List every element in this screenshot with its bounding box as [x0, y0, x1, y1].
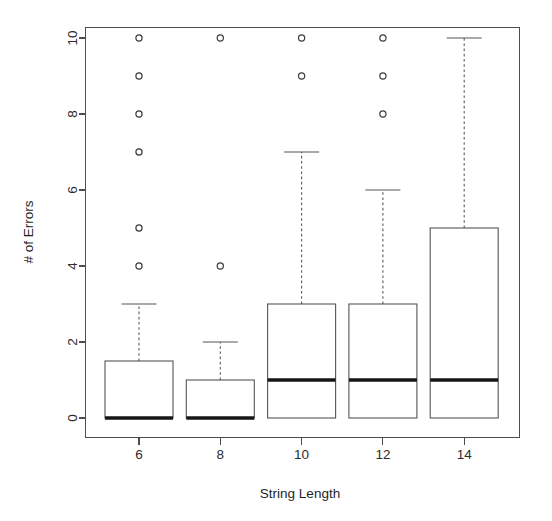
- box-iqr: [105, 361, 173, 418]
- box-iqr: [430, 228, 498, 418]
- outlier-point: [136, 263, 142, 269]
- y-tick-label: 6: [65, 186, 80, 194]
- box-group: [349, 35, 417, 418]
- outlier-point: [217, 35, 223, 41]
- outlier-point: [380, 111, 386, 117]
- x-tick-label: 14: [457, 447, 473, 462]
- outlier-point: [299, 35, 305, 41]
- x-axis-title: String Length: [260, 486, 340, 501]
- outlier-point: [380, 73, 386, 79]
- box-iqr: [268, 304, 336, 418]
- outlier-point: [380, 35, 386, 41]
- y-axis-title: # of Errors: [21, 200, 36, 263]
- y-tick-label: 8: [65, 110, 80, 118]
- outlier-point: [136, 225, 142, 231]
- x-tick-label: 12: [375, 447, 390, 462]
- x-tick-label: 8: [217, 447, 225, 462]
- outlier-point: [136, 149, 142, 155]
- boxplot-figure: 0246810 68101214 # of Errors String Leng…: [0, 0, 552, 521]
- outlier-point: [299, 73, 305, 79]
- box-iqr: [186, 380, 254, 418]
- box-series: [105, 35, 498, 418]
- plot-canvas: 0246810 68101214 # of Errors String Leng…: [0, 0, 552, 521]
- y-tick-label: 10: [65, 30, 80, 45]
- y-axis: 0246810: [65, 30, 86, 421]
- box-group: [186, 35, 254, 418]
- outlier-point: [136, 111, 142, 117]
- y-tick-label: 0: [65, 414, 80, 422]
- x-tick-label: 10: [294, 447, 309, 462]
- outlier-point: [217, 263, 223, 269]
- x-tick-label: 6: [135, 447, 143, 462]
- box-group: [430, 38, 498, 418]
- outlier-point: [136, 73, 142, 79]
- box-group: [105, 35, 173, 418]
- box-iqr: [349, 304, 417, 418]
- outlier-point: [136, 35, 142, 41]
- y-tick-label: 4: [65, 262, 80, 270]
- box-group: [268, 35, 336, 418]
- x-axis: 68101214: [135, 438, 472, 462]
- y-tick-label: 2: [65, 338, 80, 346]
